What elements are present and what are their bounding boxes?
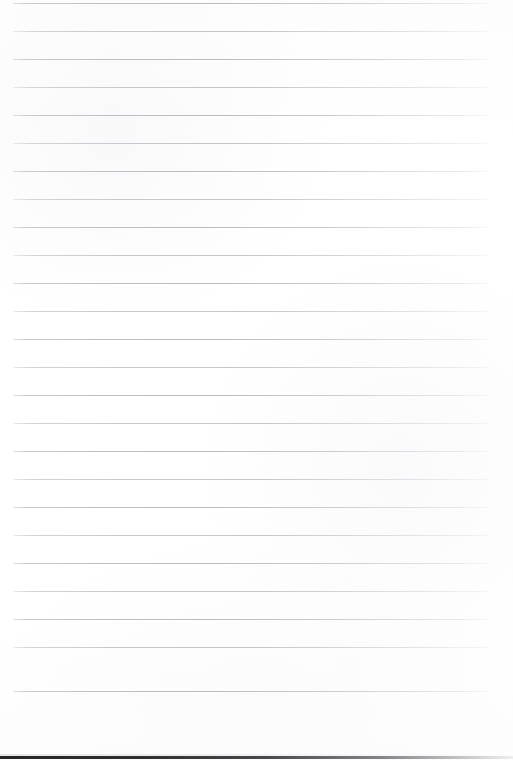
- ruled-line: [13, 31, 487, 32]
- ruled-line: [13, 227, 487, 228]
- ruled-line: [13, 451, 487, 452]
- scanned-page: [0, 0, 513, 760]
- ruled-line: [13, 87, 487, 88]
- ruled-line: [13, 255, 487, 256]
- ruled-line: [13, 339, 487, 340]
- ruled-line: [13, 691, 487, 692]
- ruled-line: [13, 563, 487, 564]
- ruled-line: [13, 479, 487, 480]
- ruled-line: [13, 619, 487, 620]
- ruled-line: [13, 367, 487, 368]
- ruled-line: [13, 395, 487, 396]
- ruled-line: [13, 115, 487, 116]
- ruled-line: [13, 199, 487, 200]
- ruled-line: [13, 591, 487, 592]
- ruled-line: [13, 311, 487, 312]
- ruled-line: [13, 423, 487, 424]
- ruled-line: [13, 59, 487, 60]
- ruled-line: [13, 3, 487, 4]
- ruled-line: [13, 507, 487, 508]
- ruled-line: [13, 647, 487, 648]
- ruled-line: [13, 535, 487, 536]
- ruled-line: [13, 143, 487, 144]
- ruled-line: [13, 283, 487, 284]
- ruled-line: [13, 171, 487, 172]
- paper-surface: [0, 0, 513, 760]
- bottom-scan-edge: [0, 756, 513, 759]
